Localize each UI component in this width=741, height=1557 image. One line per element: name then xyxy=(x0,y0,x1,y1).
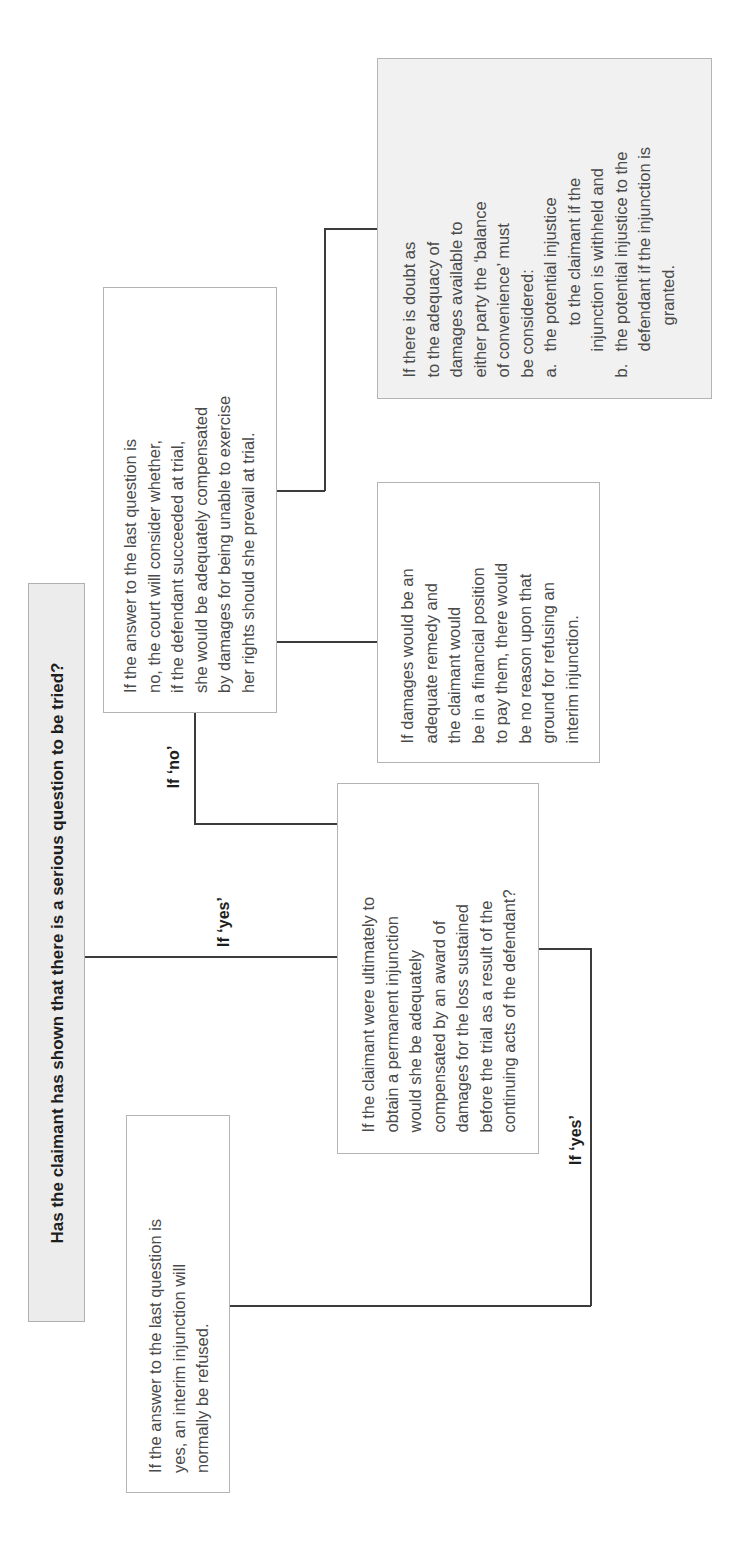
text-line: yes, an interim injunction will xyxy=(168,1115,192,1473)
text-line: of convenience’ must xyxy=(491,58,515,377)
damages-adequate-text: If damages would be an adequate remedy a… xyxy=(377,482,600,763)
text-line: injunction is withheld and xyxy=(585,58,609,377)
branch-label-if-no: If ‘no’ xyxy=(165,746,183,789)
connector-no-to-balance-h2 xyxy=(324,228,377,230)
text-line: granted. xyxy=(656,58,680,377)
text-line: the potential injustice to the xyxy=(611,151,629,351)
text-line: If the answer to the last question is xyxy=(119,287,143,693)
text-line: if the defendant succeeded at trial, xyxy=(166,287,190,693)
text-line: defendant if the injunction is xyxy=(632,58,656,377)
text-line: by damages for being unable to exercise xyxy=(213,287,237,693)
list-item-a: a. the potential injustice xyxy=(538,58,562,377)
text-line: damages for the loss sustained xyxy=(451,783,475,1132)
balance-of-convenience-box: If there is doubt as to the adequacy of … xyxy=(377,58,712,399)
text-line: she would be adequately compensated xyxy=(190,287,214,693)
text-line: ground for refusing an xyxy=(536,482,560,743)
answer-no-box: If the answer to the last question is no… xyxy=(103,287,277,713)
interim-injunction-refused-box: If the answer to the last question is ye… xyxy=(126,1115,230,1493)
list-marker: b. xyxy=(609,363,633,377)
connector-question-to-no-v xyxy=(194,713,196,824)
text-line: continuing acts of the defendant? xyxy=(498,783,522,1132)
text-line: compensated by an award of xyxy=(428,783,452,1132)
text-line: the potential injustice xyxy=(540,197,558,351)
text-line: the claimant would xyxy=(442,482,466,743)
text-line: damages available to xyxy=(444,58,468,377)
connector-question-to-no-h xyxy=(194,823,337,825)
connector-no-to-balance-h1 xyxy=(277,490,325,492)
flowchart-canvas: Has the claimant has shown that there is… xyxy=(0,0,741,1557)
text-line: no, the court will consider whether, xyxy=(143,287,167,693)
refused-text: If the answer to the last question is ye… xyxy=(126,1115,230,1493)
connector-question-to-refused-h2 xyxy=(230,1305,591,1307)
damages-question-text: If the claimant were ultimately to obtai… xyxy=(337,783,539,1154)
connector-no-to-balance-v xyxy=(324,228,326,491)
text-line: If damages would be an xyxy=(395,482,419,743)
text-line: to pay them, there would xyxy=(489,482,513,743)
text-line: to the claimant if the xyxy=(562,58,586,377)
damages-question-box: If the claimant were ultimately to obtai… xyxy=(337,783,539,1154)
title-text: Has the claimant has shown that there is… xyxy=(28,583,85,1322)
text-line: to the adequacy of xyxy=(421,58,445,377)
text-line: obtain a permanent injunction xyxy=(381,783,405,1132)
text-line: be in a financial position xyxy=(466,482,490,743)
text-line: adequate remedy and xyxy=(419,482,443,743)
text-line: be considered: xyxy=(515,58,539,377)
text-line: her rights should she prevail at trial. xyxy=(237,287,261,693)
title-box: Has the claimant has shown that there is… xyxy=(28,583,85,1322)
text-line: normally be refused. xyxy=(191,1115,215,1473)
text-line: If there is doubt as xyxy=(397,58,421,377)
text-line: either party the ‘balance xyxy=(468,58,492,377)
text-line: interim injunction. xyxy=(560,482,584,743)
connector-question-to-refused-h1 xyxy=(539,948,591,950)
text-line: before the trial as a result of the xyxy=(475,783,499,1132)
list-item-b: b. the potential injustice to the xyxy=(609,58,633,377)
damages-adequate-box: If damages would be an adequate remedy a… xyxy=(377,482,600,763)
connector-title-to-question xyxy=(85,956,337,958)
connector-question-to-refused-v xyxy=(590,948,592,1306)
text-line: would she be adequately xyxy=(404,783,428,1132)
branch-label-if-yes-main: If ‘yes’ xyxy=(215,897,233,947)
text-line: If the answer to the last question is xyxy=(144,1115,168,1473)
text-line: be no reason upon that xyxy=(513,482,537,743)
branch-label-if-yes-refused: If ‘yes’ xyxy=(567,1115,585,1165)
text-line: If the claimant were ultimately to xyxy=(357,783,381,1132)
list-marker: a. xyxy=(538,363,562,377)
balance-of-convenience-text: If there is doubt as to the adequacy of … xyxy=(377,58,712,399)
connector-no-to-adequate xyxy=(277,641,377,643)
answer-no-text: If the answer to the last question is no… xyxy=(103,287,277,713)
